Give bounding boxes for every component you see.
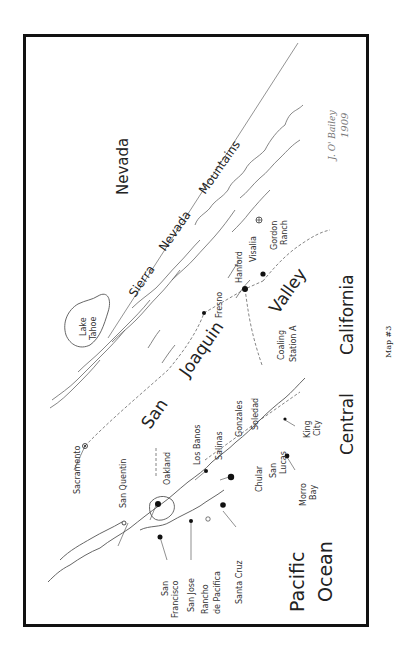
joaquin-label: Joaquin bbox=[174, 317, 227, 381]
los-banos-label: Los Banos bbox=[193, 425, 202, 465]
pacific-label: Pacific bbox=[286, 552, 308, 612]
fresno-label: Fresno bbox=[215, 292, 224, 318]
santa-cruz-label: Santa Cruz bbox=[235, 560, 244, 604]
mountain-ridges bbox=[50, 105, 303, 408]
mountains-label: Mountains bbox=[196, 138, 243, 197]
city-label: City bbox=[313, 420, 322, 436]
bay-label: Bay bbox=[309, 485, 318, 500]
san-jose-label: San Jose bbox=[187, 578, 196, 612]
gonzales-label: Gonzales bbox=[235, 400, 244, 437]
sacramento-label: Sacramento bbox=[73, 446, 82, 494]
valley-label: Valley bbox=[265, 264, 310, 317]
san-jose-marker bbox=[189, 519, 193, 523]
king-label: King bbox=[303, 420, 312, 438]
lucas-label: Lucas bbox=[279, 451, 288, 474]
san-quentin-label: San Quentin bbox=[119, 459, 128, 508]
nevada-label: Nevada bbox=[114, 138, 132, 195]
signature-year: 1909 bbox=[339, 112, 350, 138]
coastline bbox=[48, 378, 305, 582]
central-label: Central bbox=[337, 393, 357, 455]
san-label-lucas: San bbox=[269, 463, 278, 478]
coaling-label: Coaling bbox=[277, 330, 286, 360]
king-city-marker bbox=[283, 417, 286, 420]
morro-label: Morro bbox=[299, 483, 308, 506]
sierra-label: Sierra bbox=[126, 263, 158, 300]
map-drawing: Nevada Sierra Nevada Mountains San Joaqu… bbox=[0, 0, 398, 650]
santa-cruz-marker bbox=[220, 502, 226, 508]
signature-name: J. O' Bailey bbox=[327, 110, 337, 162]
visalia-label: Visalia bbox=[249, 236, 258, 262]
san-francisco-marker bbox=[158, 535, 163, 540]
nevada-mtn-label: Nevada bbox=[156, 208, 194, 254]
fresno-marker bbox=[202, 311, 206, 315]
ocean-label: Ocean bbox=[314, 541, 336, 602]
visalia-marker bbox=[260, 271, 265, 276]
oakland-label: Oakland bbox=[163, 452, 172, 485]
station-label: Station A bbox=[289, 325, 298, 362]
hanford-label: Hanford bbox=[235, 251, 244, 283]
california-label: California bbox=[337, 274, 357, 355]
rancho-marker bbox=[206, 517, 210, 521]
de-pacifica-label: de Pacifica bbox=[213, 571, 222, 614]
san-francisco-label-1: San bbox=[161, 581, 170, 596]
oakland-marker bbox=[155, 501, 161, 507]
chular-label: Chular bbox=[255, 465, 264, 492]
rancho-label: Rancho bbox=[201, 584, 210, 614]
salinas-marker bbox=[228, 474, 234, 480]
san-quentin-marker bbox=[122, 521, 126, 525]
ranch-label: Ranch bbox=[280, 220, 289, 245]
los-banos-marker bbox=[204, 469, 208, 473]
hanford-marker bbox=[242, 286, 248, 292]
lake-label: Lake bbox=[79, 317, 88, 336]
tahoe-label: Tahoe bbox=[89, 317, 98, 341]
gordon-label: Gordon bbox=[270, 221, 279, 250]
map-caption: Map #3 bbox=[384, 326, 393, 358]
san-label: San bbox=[137, 395, 172, 433]
soledad-label: Soledad bbox=[251, 398, 260, 430]
san-francisco-label-2: Francisco bbox=[171, 581, 180, 618]
salinas-label: Salinas bbox=[215, 431, 224, 460]
